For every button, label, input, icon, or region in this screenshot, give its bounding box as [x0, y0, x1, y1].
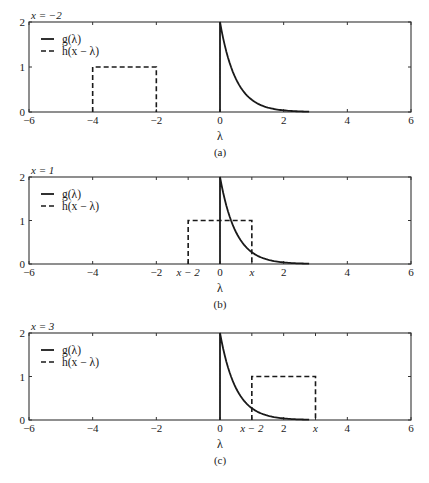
panel-caption: (c)	[214, 454, 227, 467]
chart-panel-b: −6−4−2x − 20x246012x = 1g(λ)h(x − λ)λ(b)	[20, 164, 415, 311]
x-tick-label: −2	[150, 266, 162, 278]
legend-label: h(x − λ)	[62, 356, 99, 369]
series-h-x-minus-lambda	[93, 67, 157, 112]
panel-title: x = 3	[30, 320, 55, 332]
y-tick-label: 2	[20, 16, 26, 28]
x-axis-label: λ	[217, 437, 223, 451]
x-tick-label: 2	[281, 422, 287, 434]
x-axis-label: λ	[217, 129, 223, 143]
x-tick-label: x	[248, 266, 254, 278]
x-tick-label: 6	[408, 266, 414, 278]
legend-label: h(x − λ)	[62, 200, 99, 213]
x-tick-label: x − 2	[239, 422, 264, 434]
x-tick-label: 0	[217, 422, 223, 434]
y-tick-label: 0	[20, 414, 26, 426]
y-tick-label: 2	[20, 171, 26, 183]
x-tick-label: −4	[87, 422, 99, 434]
x-tick-label: 0	[217, 266, 223, 278]
x-tick-label: 4	[345, 114, 351, 126]
x-axis-label: λ	[217, 281, 223, 295]
x-tick-label: x − 2	[176, 266, 201, 278]
y-tick-label: 1	[20, 215, 26, 227]
x-tick-label: 2	[281, 114, 287, 126]
panel-caption: (a)	[214, 146, 227, 159]
x-tick-label: −4	[87, 266, 99, 278]
x-tick-label: x	[312, 422, 318, 434]
x-tick-label: −2	[150, 114, 162, 126]
y-tick-label: 1	[20, 371, 26, 383]
x-tick-label: 0	[217, 114, 223, 126]
x-tick-label: −4	[87, 114, 99, 126]
panel-title: x = −2	[30, 9, 62, 21]
y-tick-label: 2	[20, 327, 26, 339]
x-tick-label: −2	[150, 422, 162, 434]
x-tick-label: 6	[408, 114, 414, 126]
x-tick-label: 6	[408, 422, 414, 434]
chart-panel-c: −6−4−20x − 22x46012x = 3g(λ)h(x − λ)λ(c)	[20, 320, 415, 467]
y-tick-label: 0	[20, 258, 26, 270]
panel-caption: (b)	[214, 298, 227, 311]
chart-panel-a: −6−4−20246012x = −2g(λ)h(x − λ)λ(a)	[20, 9, 415, 159]
series-g-lambda	[220, 22, 309, 112]
convolution-figure: −6−4−20246012x = −2g(λ)h(x − λ)λ(a)−6−4−…	[0, 0, 429, 483]
x-tick-label: 4	[345, 422, 351, 434]
x-tick-label: 2	[281, 266, 287, 278]
y-tick-label: 0	[20, 106, 26, 118]
x-tick-label: 4	[345, 266, 351, 278]
panel-title: x = 1	[30, 164, 54, 176]
legend-label: h(x − λ)	[62, 45, 99, 58]
y-tick-label: 1	[20, 61, 26, 73]
